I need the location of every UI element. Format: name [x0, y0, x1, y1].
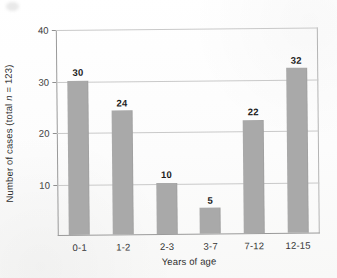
- bar-0-1: [68, 80, 90, 235]
- y-axis-title: Number of cases (total n = 123): [3, 64, 15, 202]
- x-tick-label-1-2: 1-2: [116, 241, 130, 252]
- y-tick-label-30: 30: [38, 76, 49, 87]
- bar-7-12: [243, 120, 265, 233]
- bar-group-12-15: 32: [286, 55, 309, 232]
- bar-group-7-12: 22: [243, 107, 265, 233]
- x-axis-tick-labels: 0-11-22-33-77-1212-15: [0, 0, 336, 2]
- x-tick-label-3-7: 3-7: [204, 241, 218, 252]
- x-axis-title: Years of age: [58, 255, 320, 269]
- bar-value-label-12-15: 32: [291, 55, 302, 65]
- bar-value-label-3-7: 5: [207, 195, 213, 205]
- bar-group-2-3: 10: [156, 170, 178, 234]
- y-tick-label-40: 40: [38, 25, 49, 36]
- y-axis-title-italic-n: n: [3, 95, 14, 101]
- plot-area: 10203040 30241052232: [56, 28, 320, 237]
- bar-value-label-2-3: 10: [161, 170, 172, 180]
- y-axis-title-suffix: = 123): [3, 64, 14, 95]
- bar-value-label-0-1: 30: [73, 68, 84, 78]
- y-tick-label-10: 10: [39, 179, 50, 190]
- bar-3-7: [200, 208, 221, 234]
- bar-2-3: [156, 182, 177, 234]
- x-tick-label-0-1: 0-1: [73, 242, 87, 253]
- bar-group-0-1: 30: [68, 68, 91, 235]
- bar-chart-screenshot: Number of cases (total n = 123) 10203040…: [0, 0, 337, 278]
- y-axis-title-prefix: Number of cases (total: [3, 101, 15, 203]
- x-tick-label-2-3: 2-3: [160, 241, 174, 252]
- bar-group-1-2: 24: [111, 98, 133, 234]
- x-tick-label-12-15: 12-15: [285, 240, 310, 251]
- bar-group-3-7: 5: [200, 195, 221, 233]
- y-tick-label-20: 20: [39, 128, 50, 139]
- bar-series: 30241052232: [56, 28, 320, 237]
- bar-1-2: [112, 111, 134, 235]
- x-tick-label-7-12: 7-12: [244, 240, 264, 251]
- chart-figure: Number of cases (total n = 123) 10203040…: [0, 0, 337, 278]
- bar-12-15: [286, 68, 309, 233]
- bar-value-label-7-12: 22: [248, 107, 259, 117]
- bar-value-label-1-2: 24: [116, 98, 127, 108]
